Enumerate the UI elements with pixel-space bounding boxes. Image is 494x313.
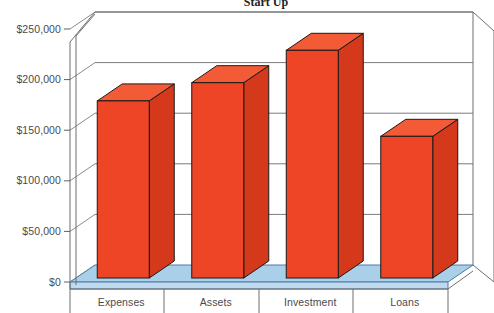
bar-front-face [286, 50, 338, 278]
bar-side-face [433, 119, 458, 278]
y-axis-tick-label: $100,000 [16, 174, 61, 186]
bar-side-face [244, 66, 269, 278]
y-axis-tick-label: $50,000 [22, 225, 61, 237]
bar-front-face [192, 83, 244, 278]
x-axis-tick-label: Expenses [98, 296, 145, 308]
bar-chart-3d: $250,000$200,000$150,000$100,000$50,000$… [0, 0, 494, 313]
y-axis-tick-label: $0 [49, 276, 61, 288]
bar-front-face [381, 136, 433, 278]
bar-front-face [97, 101, 149, 278]
bar-column[interactable] [286, 33, 363, 278]
x-axis-tick-label: Assets [200, 296, 232, 308]
bar-column[interactable] [97, 84, 174, 278]
bar-column[interactable] [381, 119, 458, 278]
y-axis-tick-marks [64, 29, 70, 282]
bar-column[interactable] [192, 66, 269, 278]
y-axis-labels: $250,000$200,000$150,000$100,000$50,000$… [16, 23, 61, 288]
chart-title: Start Up [244, 0, 289, 9]
left-side-panel [70, 12, 95, 299]
chart-container: $250,000$200,000$150,000$100,000$50,000$… [0, 0, 494, 313]
y-axis-tick-label: $150,000 [16, 124, 61, 136]
x-axis-tick-label: Loans [390, 296, 419, 308]
y-axis-tick-label: $200,000 [16, 73, 61, 85]
x-axis-tick-label: Investment [284, 296, 336, 308]
bar-side-face [149, 84, 174, 278]
y-axis-tick-label: $250,000 [16, 23, 61, 35]
bar-side-face [338, 33, 363, 278]
